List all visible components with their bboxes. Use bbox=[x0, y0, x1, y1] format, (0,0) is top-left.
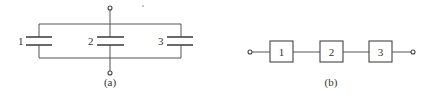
block-2-label: 2 bbox=[329, 46, 335, 58]
capacitor-1-label: 1 bbox=[18, 35, 24, 47]
block-3-label: 3 bbox=[378, 46, 384, 58]
capacitor-2-label: 2 bbox=[88, 35, 94, 47]
figure-a-caption: (a) bbox=[104, 76, 117, 89]
block-1-label: 1 bbox=[279, 46, 285, 58]
figure-a-parallel-circuit: 1 2 3 (a) bbox=[18, 5, 193, 89]
capacitor-3-label: 3 bbox=[158, 35, 164, 47]
capacitor-3-icon bbox=[167, 37, 193, 45]
figure-b-caption: (b) bbox=[325, 76, 338, 89]
stray-dot bbox=[142, 5, 143, 6]
terminal-top-icon bbox=[108, 6, 112, 10]
terminal-right-icon bbox=[411, 50, 415, 54]
capacitor-2-icon bbox=[97, 37, 124, 45]
capacitor-1-icon bbox=[26, 37, 52, 45]
diagram-canvas: 1 2 3 (a) 1 2 3 (b) bbox=[0, 0, 430, 97]
terminal-bottom-icon bbox=[108, 71, 112, 75]
terminal-left-icon bbox=[248, 50, 252, 54]
figure-b-series-circuit: 1 2 3 (b) bbox=[248, 41, 415, 89]
